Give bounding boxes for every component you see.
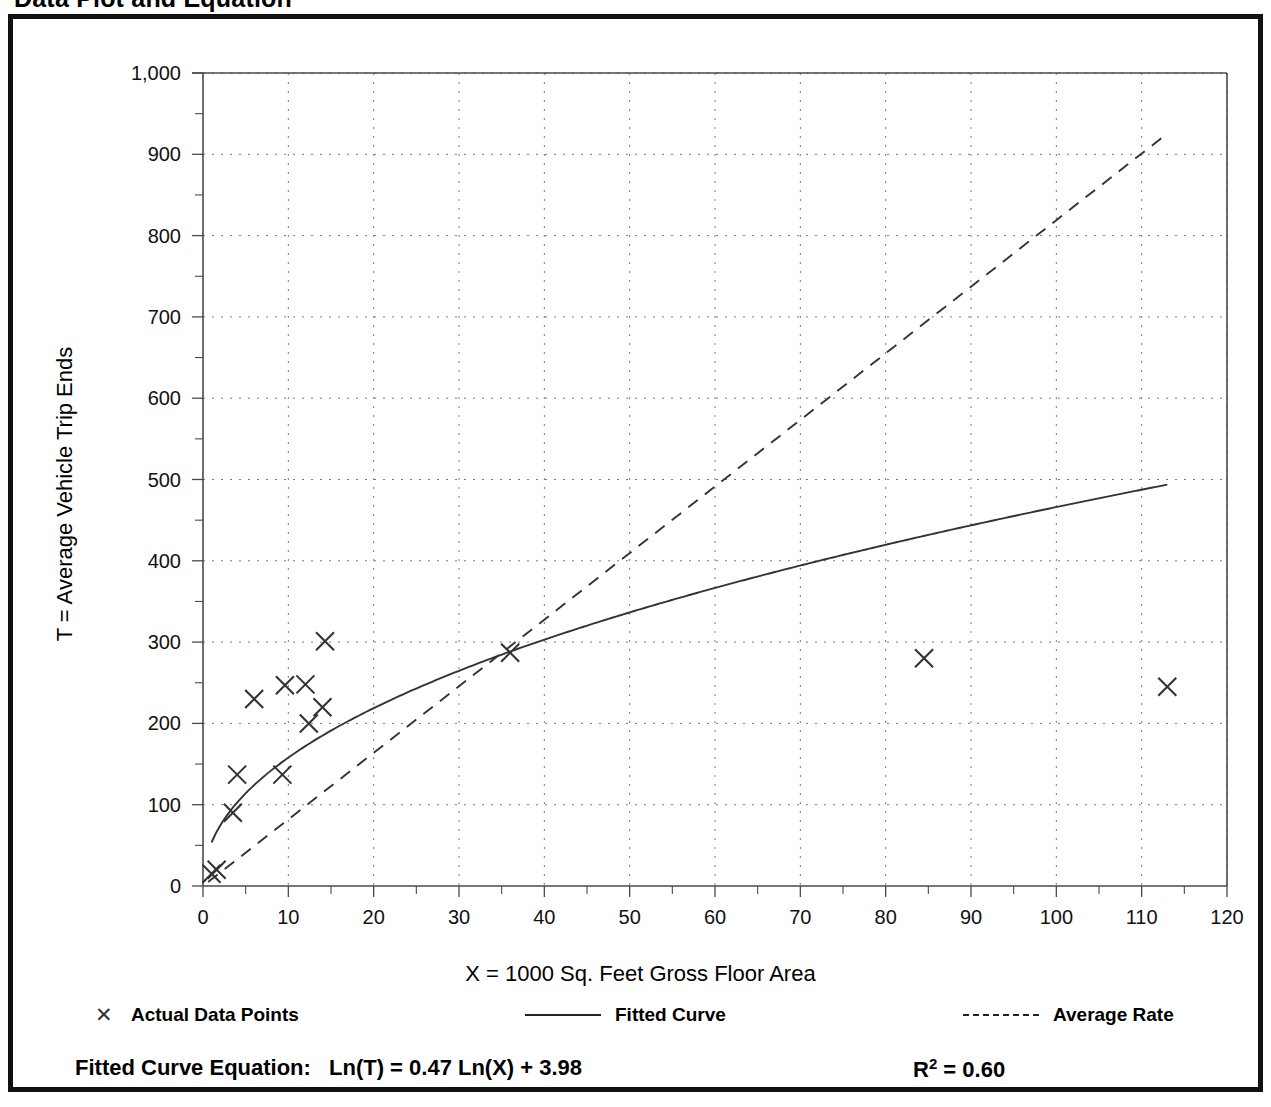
- svg-text:1,000: 1,000: [131, 62, 181, 84]
- svg-text:60: 60: [704, 906, 726, 928]
- r-squared-value: R2 = 0.60: [913, 1055, 1005, 1083]
- svg-text:30: 30: [448, 906, 470, 928]
- equation-prefix: Fitted Curve Equation:: [75, 1055, 311, 1080]
- y-axis-title: T = Average Vehicle Trip Ends: [52, 294, 78, 694]
- svg-text:80: 80: [875, 906, 897, 928]
- svg-text:100: 100: [148, 794, 181, 816]
- legend-label-fitted-curve: Fitted Curve: [615, 1004, 726, 1026]
- solid-line-icon: [525, 1006, 601, 1024]
- legend-label-actual-data-points: Actual Data Points: [131, 1004, 299, 1026]
- svg-text:100: 100: [1040, 906, 1073, 928]
- fitted-curve-equation: Fitted Curve Equation: Ln(T) = 0.47 Ln(X…: [75, 1055, 582, 1081]
- svg-text:120: 120: [1210, 906, 1243, 928]
- svg-text:20: 20: [363, 906, 385, 928]
- r-squared-number: = 0.60: [943, 1057, 1005, 1082]
- chart-plot-area: 01002003004005006007008009001,0000102030…: [13, 19, 1258, 1087]
- svg-text:700: 700: [148, 306, 181, 328]
- svg-text:400: 400: [148, 550, 181, 572]
- r-squared-exponent: 2: [929, 1055, 937, 1072]
- equation-body: Ln(T) = 0.47 Ln(X) + 3.98: [329, 1055, 582, 1080]
- legend-item-actual-data-points: ✕ Actual Data Points: [91, 1004, 299, 1026]
- svg-text:200: 200: [148, 712, 181, 734]
- chart-legend: ✕ Actual Data Points Fitted Curve Averag…: [13, 1004, 1268, 1038]
- svg-text:110: 110: [1126, 906, 1158, 928]
- legend-item-average-rate: Average Rate: [963, 1004, 1174, 1026]
- svg-text:600: 600: [148, 387, 181, 409]
- svg-text:10: 10: [277, 906, 299, 928]
- dashed-line-icon: [963, 1006, 1039, 1024]
- svg-text:50: 50: [619, 906, 641, 928]
- svg-text:300: 300: [148, 631, 181, 653]
- legend-item-fitted-curve: Fitted Curve: [525, 1004, 726, 1026]
- svg-text:0: 0: [170, 875, 181, 897]
- x-axis-title: X = 1000 Sq. Feet Gross Floor Area: [13, 961, 1268, 987]
- x-marker-icon: ✕: [91, 1006, 117, 1024]
- r-squared-label: R: [913, 1057, 929, 1082]
- svg-text:40: 40: [533, 906, 555, 928]
- svg-text:800: 800: [148, 225, 181, 247]
- svg-text:900: 900: [148, 143, 181, 165]
- svg-text:90: 90: [960, 906, 982, 928]
- page-title: Data Plot and Equation: [14, 0, 292, 13]
- legend-label-average-rate: Average Rate: [1053, 1004, 1174, 1026]
- figure-frame: 01002003004005006007008009001,0000102030…: [8, 14, 1263, 1092]
- svg-text:70: 70: [789, 906, 811, 928]
- svg-text:0: 0: [197, 906, 208, 928]
- equation-row: Fitted Curve Equation: Ln(T) = 0.47 Ln(X…: [13, 1055, 1268, 1089]
- svg-text:500: 500: [148, 469, 181, 491]
